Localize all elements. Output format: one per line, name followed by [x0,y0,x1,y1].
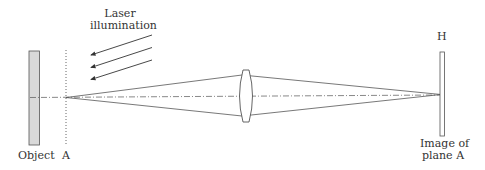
diagram-graphics [0,0,485,170]
laser-label-line2: illumination [90,20,150,32]
laser-arrows [91,35,152,80]
object-label: Object [18,150,55,162]
lens [240,70,253,122]
optical-setup-diagram: Laser illumination Object A H Image of p… [0,0,485,170]
hologram-label: H [437,31,447,43]
hologram-plate [440,52,445,136]
plane-a-label: A [62,150,70,162]
image-label: Image of plane A [420,138,466,162]
object-plate [29,51,40,145]
laser-label: Laser illumination [90,8,150,32]
optical-axis [30,95,440,98]
image-label-line2: plane A [420,150,466,162]
